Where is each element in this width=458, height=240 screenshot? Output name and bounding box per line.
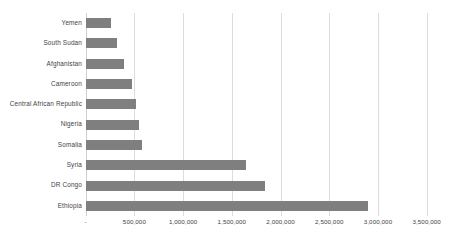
- bar-slot: [86, 135, 427, 155]
- value-axis-label: 3,000,000: [364, 219, 392, 225]
- value-axis: -500,0001,000,0001,500,0002,000,0002,500…: [86, 219, 427, 233]
- category-axis-label: Somalia: [0, 142, 82, 148]
- bar[interactable]: [86, 140, 142, 150]
- category-axis-label: Cameroon: [0, 81, 82, 87]
- category-axis-label: Nigeria: [0, 121, 82, 127]
- category-axis-label: Syria: [0, 162, 82, 168]
- value-axis-label: 2,500,000: [315, 219, 343, 225]
- bars-layer: [86, 13, 427, 216]
- value-axis-label: -: [85, 219, 87, 225]
- category-axis: YemenSouth SudanAfghanistanCameroonCentr…: [0, 13, 82, 216]
- bar[interactable]: [86, 59, 125, 69]
- value-axis-label: 1,500,000: [218, 219, 246, 225]
- bar[interactable]: [86, 99, 136, 109]
- category-axis-label: Yemen: [0, 20, 82, 26]
- category-axis-label: Afghanistan: [0, 61, 82, 67]
- bar[interactable]: [86, 160, 247, 170]
- bar[interactable]: [86, 181, 265, 191]
- bar-slot: [86, 115, 427, 135]
- bar[interactable]: [86, 79, 133, 89]
- bar-slot: [86, 94, 427, 114]
- gridline: [427, 13, 428, 216]
- bar[interactable]: [86, 38, 118, 48]
- bar[interactable]: [86, 120, 140, 130]
- bar[interactable]: [86, 18, 111, 28]
- value-axis-label: 3,500,000: [412, 219, 440, 225]
- bar-slot: [86, 13, 427, 33]
- value-axis-label: 500,000: [123, 219, 146, 225]
- value-axis-label: 2,000,000: [266, 219, 294, 225]
- bar-slot: [86, 74, 427, 94]
- category-axis-label: Central African Republic: [0, 101, 82, 107]
- bar-slot: [86, 196, 427, 216]
- value-axis-label: 1,000,000: [169, 219, 197, 225]
- bar-slot: [86, 155, 427, 175]
- category-axis-label: South Sudan: [0, 40, 82, 46]
- bar-chart: YemenSouth SudanAfghanistanCameroonCentr…: [0, 0, 458, 240]
- bar[interactable]: [86, 201, 369, 211]
- bar-slot: [86, 54, 427, 74]
- category-axis-label: Ethiopia: [0, 203, 82, 209]
- plot-area: [86, 13, 427, 216]
- category-axis-label: DR Congo: [0, 182, 82, 188]
- bar-slot: [86, 175, 427, 195]
- bar-slot: [86, 33, 427, 53]
